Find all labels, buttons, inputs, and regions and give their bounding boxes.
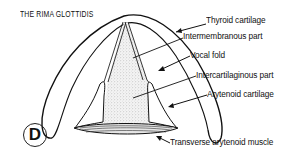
label-intercartilaginous-part: Intercartilaginous part (196, 69, 273, 80)
label-transverse-arytenoid-muscle: Transverse arytenoid muscle (170, 136, 273, 147)
panel-letter-badge: D (23, 123, 47, 147)
transverse-arytenoid-muscle (74, 124, 178, 135)
label-vocal-fold: Vocal fold (190, 49, 225, 60)
label-thyroid-cartilage: Thyroid cartilage (206, 14, 266, 25)
label-intermembranous-part: Intermembranous part (183, 30, 262, 41)
left-arytenoid-cartilage (75, 82, 105, 128)
leader-arytenoid (170, 95, 207, 106)
glottis-opening (103, 22, 151, 123)
figure-title: THE RIMA GLOTTIDIS (20, 9, 94, 19)
leader-transverse (160, 138, 170, 143)
leader-vocal-fold (160, 56, 190, 70)
label-arytenoid-cartilage: Arytenoid cartilage (207, 88, 274, 99)
rima-glottidis-diagram: THE RIMA GLOTTIDIS Thyroid cartilage Int… (0, 0, 300, 163)
